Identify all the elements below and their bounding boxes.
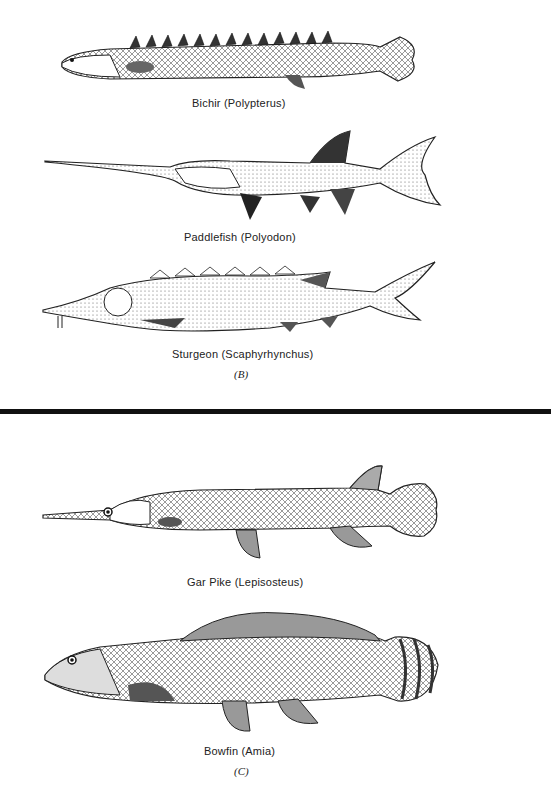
sturgeon-illustration — [0, 258, 551, 338]
panel-label-b: (B) — [234, 368, 248, 380]
paddlefish-illustration — [0, 125, 551, 230]
gar-pike-illustration — [0, 460, 551, 570]
caption-bowfin: Bowfin (Amia) — [204, 745, 275, 757]
caption-gar-pike: Gar Pike (Lepisosteus) — [187, 576, 303, 588]
bichir-illustration — [0, 15, 551, 95]
section-divider — [0, 409, 551, 414]
caption-sturgeon: Sturgeon (Scaphyrhynchus) — [172, 348, 313, 360]
caption-bichir: Bichir (Polypterus) — [192, 97, 286, 109]
bowfin-illustration — [0, 605, 551, 735]
caption-paddlefish: Paddlefish (Polyodon) — [184, 231, 296, 243]
panel-label-c: (C) — [234, 765, 249, 777]
